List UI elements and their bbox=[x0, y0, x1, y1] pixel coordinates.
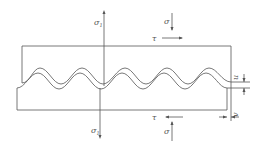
sigma1-top-label: σ1 bbox=[94, 18, 103, 28]
upper-block bbox=[22, 46, 231, 83]
sigma-top-arrowhead bbox=[171, 27, 174, 31]
sigma-bottom-label: σ bbox=[164, 127, 170, 136]
sigma-bottom-arrowhead bbox=[171, 121, 174, 125]
u-arrowhead-top bbox=[243, 78, 246, 82]
u-arrowhead-bottom bbox=[243, 88, 246, 92]
sigma1-top-arrowhead bbox=[103, 10, 106, 14]
sigma-top-label: σ bbox=[164, 17, 170, 26]
lower-block bbox=[17, 88, 227, 110]
tau-top-arrowhead bbox=[179, 37, 183, 40]
u-label: u bbox=[231, 75, 240, 80]
lower-wave bbox=[17, 73, 227, 89]
sigma1-bottom-label: σ1 bbox=[91, 126, 100, 136]
interface-diagram: σ1 σ τ τ σ1 σ u v bbox=[0, 0, 260, 153]
tau-bottom-label: τ bbox=[152, 113, 157, 122]
tau-bottom-arrowhead bbox=[165, 116, 169, 119]
v-label: v bbox=[231, 112, 240, 117]
v-arrowhead-left bbox=[223, 116, 227, 119]
tau-top-label: τ bbox=[152, 34, 157, 43]
